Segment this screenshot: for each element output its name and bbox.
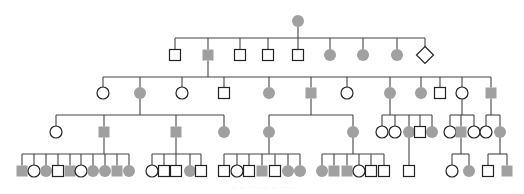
unaffected-female-circle-icon <box>480 126 492 138</box>
unknown-sex-diamond-icon <box>417 47 434 64</box>
unaffected-female-circle-icon <box>28 165 40 177</box>
affected-female-circle-icon <box>40 165 52 177</box>
affected-female-circle-icon <box>357 49 369 61</box>
affected-female-circle-icon <box>316 165 328 177</box>
affected-female-circle-icon <box>87 165 99 177</box>
unaffected-male-square-icon <box>244 166 255 177</box>
affected-male-square-icon <box>486 88 497 99</box>
unaffected-male-square-icon <box>366 166 377 177</box>
unaffected-male-square-icon <box>293 50 304 61</box>
unaffected-female-circle-icon <box>75 165 87 177</box>
affected-male-square-icon <box>456 127 467 138</box>
affected-male-square-icon <box>171 127 182 138</box>
unaffected-female-circle-icon <box>176 87 188 99</box>
affected-male-square-icon <box>112 166 123 177</box>
affected-female-circle-icon <box>99 165 111 177</box>
affected-female-circle-icon <box>218 126 230 138</box>
unaffected-male-square-icon <box>53 166 64 177</box>
affected-female-circle-icon <box>324 49 336 61</box>
unaffected-female-circle-icon <box>456 87 468 99</box>
affected-female-circle-icon <box>384 87 396 99</box>
unaffected-female-circle-icon <box>50 126 62 138</box>
affected-male-square-icon <box>17 166 28 177</box>
affected-female-circle-icon <box>282 165 294 177</box>
affected-female-circle-icon <box>184 165 196 177</box>
affected-female-circle-icon <box>403 126 415 138</box>
affected-female-circle-icon <box>134 87 146 99</box>
affected-female-circle-icon <box>426 126 438 138</box>
figure-caption: ··· ·· ·· ···· ·· ····· <box>0 184 524 190</box>
unaffected-female-circle-icon <box>444 126 456 138</box>
pedigree-svg <box>0 0 524 194</box>
unaffected-male-square-icon <box>170 50 181 61</box>
affected-male-square-icon <box>65 166 76 177</box>
affected-female-circle-icon <box>263 87 275 99</box>
unaffected-male-square-icon <box>171 166 182 177</box>
affected-male-square-icon <box>306 88 317 99</box>
affected-female-circle-icon <box>123 165 135 177</box>
unaffected-female-circle-icon <box>468 126 480 138</box>
affected-female-circle-icon <box>463 165 475 177</box>
affected-female-circle-icon <box>292 15 304 27</box>
unaffected-male-square-icon <box>196 166 207 177</box>
unaffected-male-square-icon <box>415 127 426 138</box>
unaffected-male-square-icon <box>379 166 390 177</box>
unaffected-male-square-icon <box>435 88 446 99</box>
pedigree-diagram: ··· ·· ·· ···· ·· ····· <box>0 0 524 194</box>
affected-female-circle-icon <box>415 87 427 99</box>
unaffected-female-circle-icon <box>376 126 388 138</box>
affected-male-square-icon <box>99 127 110 138</box>
affected-male-square-icon <box>203 50 214 61</box>
unaffected-male-square-icon <box>270 166 281 177</box>
unaffected-female-circle-icon <box>389 126 401 138</box>
unaffected-male-square-icon <box>235 50 246 61</box>
affected-male-square-icon <box>257 166 268 177</box>
unaffected-female-circle-icon <box>97 87 109 99</box>
affected-male-square-icon <box>342 166 353 177</box>
affected-female-circle-icon <box>294 165 306 177</box>
unaffected-female-circle-icon <box>446 165 458 177</box>
affected-female-circle-icon <box>347 126 359 138</box>
affected-female-circle-icon <box>263 126 275 138</box>
unaffected-female-circle-icon <box>146 165 158 177</box>
affected-male-square-icon <box>329 166 340 177</box>
unaffected-male-square-icon <box>263 50 274 61</box>
affected-female-circle-icon <box>391 49 403 61</box>
unaffected-male-square-icon <box>219 88 230 99</box>
unaffected-female-circle-icon <box>353 165 365 177</box>
unaffected-male-square-icon <box>483 166 494 177</box>
unaffected-male-square-icon <box>219 166 230 177</box>
unaffected-male-square-icon <box>159 166 170 177</box>
affected-male-square-icon <box>502 166 513 177</box>
unaffected-female-circle-icon <box>341 87 353 99</box>
unaffected-female-circle-icon <box>231 165 243 177</box>
unaffected-male-square-icon <box>404 166 415 177</box>
affected-female-circle-icon <box>494 126 506 138</box>
